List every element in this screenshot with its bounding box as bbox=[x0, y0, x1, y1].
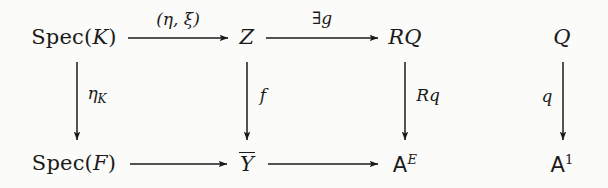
arrow-label-f: f bbox=[260, 87, 266, 104]
node-spec-k-prefix: Spec( bbox=[31, 25, 92, 49]
node-a-e-base: A bbox=[393, 153, 408, 177]
arrow-label-eta-xi: (η, ξ) bbox=[156, 11, 200, 28]
exists-icon: ∃ bbox=[312, 8, 321, 28]
node-spec-f-suffix: ) bbox=[108, 151, 116, 175]
node-q: Q bbox=[553, 27, 570, 48]
node-q-label: Q bbox=[553, 25, 570, 49]
arrow-label-eta-k-base: η bbox=[87, 83, 97, 103]
node-a-e-superscript: E bbox=[407, 152, 417, 167]
arrow-label-q-text: q bbox=[542, 86, 553, 106]
arrow-label-eta-k: ηK bbox=[87, 85, 106, 105]
node-rq-label: RQ bbox=[388, 25, 421, 49]
node-rq: RQ bbox=[388, 27, 421, 48]
node-ybar-label: Y bbox=[240, 153, 254, 175]
arrow-label-eta-k-sub: K bbox=[98, 92, 107, 106]
node-z-label: Z bbox=[240, 25, 255, 49]
arrow-label-rq: Rq bbox=[416, 87, 440, 104]
commutative-diagram: Spec(K) Z RQ Q Spec(F) Y AE A1 (η, ξ) ∃g… bbox=[0, 0, 608, 188]
arrow-label-f-text: f bbox=[260, 85, 266, 105]
node-a-1-base: A bbox=[550, 153, 565, 177]
node-spec-k: Spec(K) bbox=[31, 27, 117, 48]
node-z: Z bbox=[240, 27, 255, 48]
arrow-label-g-text: g bbox=[321, 8, 332, 28]
node-spec-k-suffix: ) bbox=[108, 25, 116, 49]
node-spec-f-prefix: Spec( bbox=[32, 151, 93, 175]
node-spec-f: Spec(F) bbox=[32, 153, 116, 174]
node-spec-k-arg: K bbox=[92, 25, 108, 49]
arrow-label-q: q bbox=[542, 88, 553, 105]
arrow-label-exists-g: ∃g bbox=[312, 10, 332, 27]
arrow-label-rq-text: Rq bbox=[416, 85, 440, 105]
node-a-e: AE bbox=[393, 153, 417, 176]
arrow-label-eta-xi-text: (η, ξ) bbox=[156, 9, 200, 29]
node-a-1: A1 bbox=[550, 153, 573, 176]
node-a-1-superscript: 1 bbox=[565, 152, 573, 167]
node-ybar: Y bbox=[240, 153, 254, 175]
node-spec-f-arg: F bbox=[93, 151, 108, 175]
